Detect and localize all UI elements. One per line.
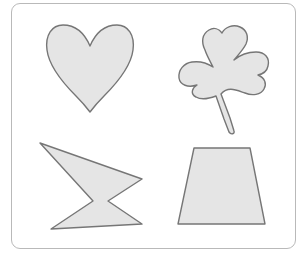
shamrock-shape: Shamrock bbox=[179, 26, 269, 134]
irregular-polygon-shape: Irregular hexagon bbox=[40, 143, 142, 229]
shapes-layer: Heart Shamrock Irregular hexagon Trapezo… bbox=[0, 0, 301, 253]
figure-canvas: Heart Shamrock Irregular hexagon Trapezo… bbox=[0, 0, 301, 253]
trapezoid-shape: Trapezoid bbox=[178, 148, 265, 224]
heart-shape: Heart bbox=[47, 25, 134, 112]
